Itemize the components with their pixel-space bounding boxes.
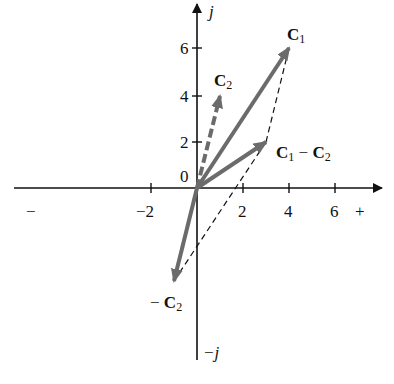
imag-positive-label: j bbox=[209, 3, 214, 20]
x-tick-label: 2 bbox=[238, 203, 247, 220]
real-negative-label: − bbox=[26, 203, 36, 220]
x-tick-label: 6 bbox=[330, 203, 339, 220]
diagram-canvas bbox=[0, 0, 394, 384]
vector-label-c2: C2 bbox=[214, 72, 232, 91]
vector-label-c1-minus-c2: C1 − C2 bbox=[276, 144, 331, 163]
x-tick-label: −2 bbox=[136, 203, 154, 220]
y-tick-label: 4 bbox=[180, 88, 189, 105]
imag-negative-label: −j bbox=[203, 344, 219, 361]
x-tick-label: 4 bbox=[284, 203, 293, 220]
vector-label-neg-c2: − C2 bbox=[150, 294, 182, 313]
y-tick-label: 2 bbox=[180, 134, 189, 151]
vector-neg-c2 bbox=[174, 188, 197, 281]
real-positive-label: + bbox=[355, 203, 365, 220]
origin-label: 0 bbox=[180, 168, 189, 185]
vector-c1 bbox=[197, 48, 289, 188]
vector-label-c1: C1 bbox=[287, 26, 305, 45]
construction-line-diff bbox=[174, 142, 266, 281]
y-tick-label: 6 bbox=[180, 40, 189, 57]
